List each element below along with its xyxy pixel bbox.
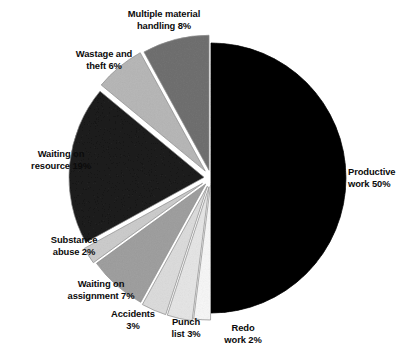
slice-label-punch-list: Punch list 3% bbox=[160, 316, 212, 339]
slice-label-wastage-and-theft: Wastage and theft 6% bbox=[44, 48, 164, 71]
slice-label-redo-work: Redo work 2% bbox=[214, 322, 272, 345]
pie-chart-figure: Multiple material handling 8% Wastage an… bbox=[0, 0, 411, 354]
slice-label-productive-work: Productive work 50% bbox=[348, 166, 411, 189]
slice-label-substance-abuse: Substance abuse 2% bbox=[22, 234, 126, 257]
slice-label-multiple-material-handling: Multiple material handling 8% bbox=[96, 8, 232, 31]
slice-label-waiting-on-resource: Waiting on resource 19% bbox=[2, 148, 120, 171]
slice-label-waiting-on-assignment: Waiting on assignment 7% bbox=[38, 278, 164, 301]
slice-label-accidents: Accidents 3% bbox=[102, 308, 164, 331]
pie-slice-productive-work[interactable] bbox=[211, 43, 346, 313]
